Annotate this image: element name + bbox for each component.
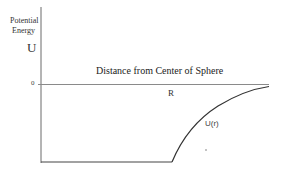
dot-marker [205, 149, 207, 151]
curve-label: U(r) [205, 120, 219, 128]
y-axis-symbol: U [27, 41, 36, 54]
potential-energy-diagram: Potential Energy U 0 Distance from Cente… [0, 0, 282, 174]
exterior-potential-curve [172, 87, 269, 163]
y-axis-label-potential: Potential [10, 17, 38, 25]
diagram-canvas [0, 0, 282, 174]
x-axis-label: Distance from Center of Sphere [96, 66, 223, 76]
zero-tick-label: 0 [31, 80, 35, 87]
y-axis-label-energy: Energy [12, 27, 35, 35]
radius-marker-label: R [168, 89, 174, 98]
